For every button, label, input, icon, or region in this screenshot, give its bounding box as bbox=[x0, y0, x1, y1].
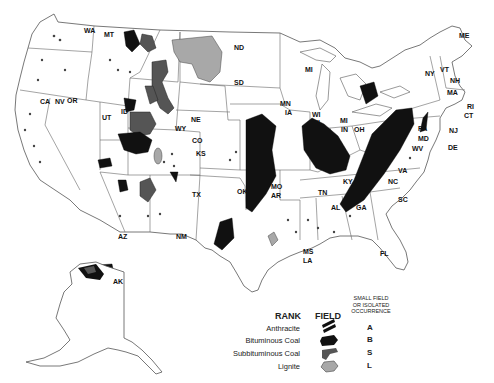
state-label-nv: NV bbox=[55, 98, 65, 105]
state-label-in: IN bbox=[341, 126, 348, 133]
state-label-mo: MO bbox=[271, 183, 282, 190]
us-outline bbox=[15, 14, 472, 292]
state-label-ia: IA bbox=[285, 109, 292, 116]
state-label-oh: OH bbox=[354, 126, 365, 133]
state-label-wy: WY bbox=[175, 125, 186, 132]
state-label-sd: SD bbox=[234, 79, 244, 86]
state-label-ks: KS bbox=[196, 150, 206, 157]
state-label-mi: MI bbox=[305, 66, 313, 73]
lignite-swatch-icon bbox=[321, 361, 338, 372]
state-label-mi: MI bbox=[340, 117, 348, 124]
state-label-tn: TN bbox=[318, 189, 327, 196]
state-label-pa: PA bbox=[418, 125, 427, 132]
legend-rank-lignite: Lignite bbox=[278, 363, 300, 371]
state-label-nj: NJ bbox=[449, 127, 458, 134]
state-label-nc: NC bbox=[388, 178, 398, 185]
legend-rank-subbituminous: Subbituminous Coal bbox=[233, 350, 300, 358]
small-header-line-2: OR ISOLATED bbox=[346, 302, 396, 309]
state-label-ok: OK bbox=[237, 188, 248, 195]
state-label-mn: MN bbox=[280, 100, 291, 107]
legend-rank-bituminous: Bituminous Coal bbox=[245, 337, 300, 345]
legend-field-header: FIELD bbox=[315, 312, 341, 321]
state-label-tx: TX bbox=[192, 191, 201, 198]
small-header-line-1: SMALL FIELD bbox=[346, 295, 396, 302]
legend-rank-anthracite: Anthracite bbox=[266, 325, 300, 333]
state-label-nm: NM bbox=[176, 233, 187, 240]
state-label-ca: CA bbox=[40, 98, 50, 105]
state-label-wa: WA bbox=[84, 27, 95, 34]
subbituminous-swatch-icon bbox=[322, 348, 338, 360]
legend-code-l: L bbox=[367, 362, 372, 370]
state-label-nd: ND bbox=[234, 44, 244, 51]
state-label-de: DE bbox=[448, 144, 458, 151]
state-label-il: IL bbox=[316, 119, 322, 126]
state-label-al: AL bbox=[331, 204, 340, 211]
legend-rank-header: RANK bbox=[275, 312, 301, 321]
state-label-ms: MS bbox=[303, 248, 314, 255]
state-label-ut: UT bbox=[102, 114, 111, 121]
state-label-ky: KY bbox=[343, 178, 353, 185]
state-label-ma: MA bbox=[447, 89, 458, 96]
state-label-vt: VT bbox=[440, 66, 449, 73]
state-label-or: OR bbox=[67, 97, 78, 104]
state-label-ny: NY bbox=[425, 70, 435, 77]
state-label-wi: WI bbox=[312, 111, 321, 118]
state-label-va: VA bbox=[398, 167, 407, 174]
state-label-wv: WV bbox=[412, 145, 423, 152]
state-label-me: ME bbox=[459, 32, 470, 39]
state-label-la: LA bbox=[303, 257, 312, 264]
legend-code-b: B bbox=[367, 336, 373, 344]
state-label-id: ID bbox=[121, 108, 128, 115]
legend-code-s: S bbox=[367, 349, 372, 357]
legend-small-header: SMALL FIELD OR ISOLATED OCCURRENCE bbox=[346, 295, 396, 315]
state-label-md: MD bbox=[418, 135, 429, 142]
state-label-ga: GA bbox=[356, 204, 367, 211]
state-label-sc: SC bbox=[398, 196, 408, 203]
legend-swatches bbox=[320, 319, 338, 372]
state-label-nh: NH bbox=[450, 77, 460, 84]
legend-code-a: A bbox=[367, 324, 373, 332]
bituminous-swatch-icon bbox=[320, 335, 338, 346]
state-label-ar: AR bbox=[271, 192, 281, 199]
state-label-ne: NE bbox=[191, 116, 201, 123]
state-label-fl: FL bbox=[380, 250, 389, 257]
state-label-co: CO bbox=[192, 137, 203, 144]
anthracite-swatch-icon bbox=[322, 319, 336, 333]
state-label-ak: AK bbox=[113, 278, 123, 285]
state-label-ct: CT bbox=[464, 112, 473, 119]
state-label-az: AZ bbox=[118, 233, 127, 240]
coal-map: WAMTNDSDORCANVIDUTWYNECOKSOKTXAZNMAKMNIA… bbox=[0, 0, 494, 383]
state-label-ri: RI bbox=[467, 103, 474, 110]
small-header-line-3: OCCURRENCE bbox=[346, 308, 396, 315]
state-label-mt: MT bbox=[104, 31, 114, 38]
